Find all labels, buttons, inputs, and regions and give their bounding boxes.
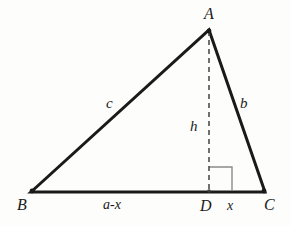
vertex-label-c: C [264, 197, 275, 213]
triangle-figure-svg [0, 0, 291, 226]
vertex-label-a: A [204, 6, 214, 22]
right-angle-icon [209, 167, 232, 191]
vertex-dot-A [207, 29, 212, 34]
altitude-label-h: h [190, 119, 198, 134]
geometry-diagram: A B C D c b h a-x x [0, 0, 291, 226]
base-segment-label-x: x [227, 199, 233, 213]
vertex-dot-D [207, 189, 211, 193]
vertex-dot-C [262, 189, 267, 194]
vertex-label-d: D [200, 198, 212, 214]
vertex-label-b: B [17, 197, 27, 213]
side-label-c: c [106, 96, 113, 111]
vertex-dot-B [30, 189, 35, 194]
base-segment-label-a-minus-x: a-x [103, 198, 121, 212]
side-label-b: b [240, 96, 248, 111]
